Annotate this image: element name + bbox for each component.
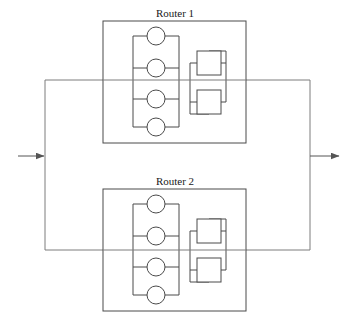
network-diagram: Router 1: [0, 0, 353, 329]
router-1-node-3[interactable]: [147, 90, 165, 108]
router-2-module-1[interactable]: [197, 219, 221, 243]
diagram-canvas: Router 1: [0, 0, 353, 329]
router-2-node-3[interactable]: [147, 258, 165, 276]
router-2-node-2[interactable]: [147, 227, 165, 245]
router-1-node-4[interactable]: [147, 118, 165, 136]
router-2-node-1[interactable]: [147, 195, 165, 213]
router-1-label: Router 1: [156, 7, 194, 19]
router-2-module-2[interactable]: [197, 258, 221, 282]
router-1-frame[interactable]: [103, 21, 246, 143]
router-2-node-4[interactable]: [147, 286, 165, 304]
router-1-group[interactable]: [103, 21, 246, 143]
router-1-node-1[interactable]: [147, 27, 165, 45]
router-1-node-2[interactable]: [147, 59, 165, 77]
router-2-label: Router 2: [156, 175, 194, 187]
router-1-module-1[interactable]: [197, 51, 221, 75]
router-1-module-2[interactable]: [197, 90, 221, 114]
